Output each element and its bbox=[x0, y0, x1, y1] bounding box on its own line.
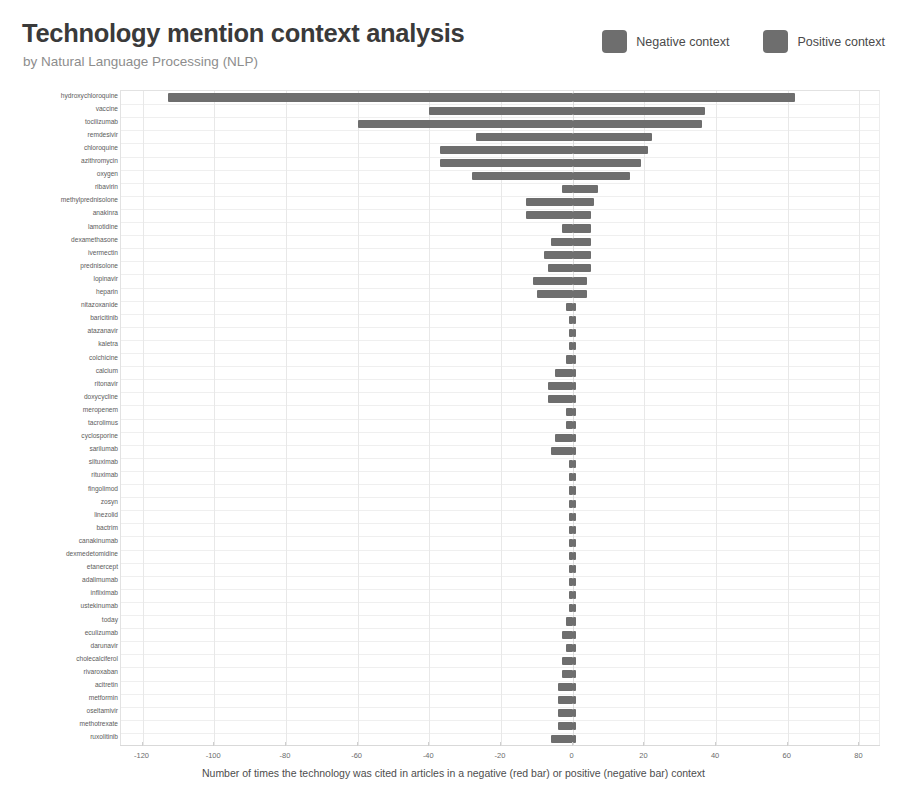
bar-negative[interactable] bbox=[562, 631, 573, 639]
bar-positive[interactable] bbox=[573, 290, 587, 298]
bar-row[interactable] bbox=[121, 615, 879, 628]
bar-positive[interactable] bbox=[573, 342, 577, 350]
bar-row[interactable] bbox=[121, 523, 879, 536]
bar-row[interactable] bbox=[121, 91, 879, 104]
bar-row[interactable] bbox=[121, 576, 879, 589]
bar-row[interactable] bbox=[121, 248, 879, 261]
bar-positive[interactable] bbox=[573, 224, 591, 232]
bar-negative[interactable] bbox=[533, 277, 572, 285]
bar-row[interactable] bbox=[121, 366, 879, 379]
bar-row[interactable] bbox=[121, 157, 879, 170]
bar-row[interactable] bbox=[121, 563, 879, 576]
bar-row[interactable] bbox=[121, 681, 879, 694]
bar-negative[interactable] bbox=[551, 735, 573, 743]
bar-row[interactable] bbox=[121, 130, 879, 143]
bar-row[interactable] bbox=[121, 209, 879, 222]
bar-positive[interactable] bbox=[573, 591, 577, 599]
bar-row[interactable] bbox=[121, 589, 879, 602]
bar-row[interactable] bbox=[121, 170, 879, 183]
bar-positive[interactable] bbox=[573, 120, 702, 128]
bar-row[interactable] bbox=[121, 235, 879, 248]
bar-positive[interactable] bbox=[573, 264, 591, 272]
bar-positive[interactable] bbox=[573, 709, 577, 717]
bar-positive[interactable] bbox=[573, 722, 577, 730]
bar-negative[interactable] bbox=[358, 120, 573, 128]
bar-row[interactable] bbox=[121, 484, 879, 497]
bar-row[interactable] bbox=[121, 274, 879, 287]
bar-positive[interactable] bbox=[573, 631, 577, 639]
bar-row[interactable] bbox=[121, 641, 879, 654]
bar-row[interactable] bbox=[121, 288, 879, 301]
bar-positive[interactable] bbox=[573, 316, 577, 324]
bar-row[interactable] bbox=[121, 707, 879, 720]
bar-row[interactable] bbox=[121, 301, 879, 314]
bar-negative[interactable] bbox=[558, 722, 572, 730]
bar-positive[interactable] bbox=[573, 251, 591, 259]
bar-positive[interactable] bbox=[573, 238, 591, 246]
bar-positive[interactable] bbox=[573, 434, 577, 442]
bar-negative[interactable] bbox=[555, 369, 573, 377]
bar-negative[interactable] bbox=[544, 251, 573, 259]
bar-positive[interactable] bbox=[573, 355, 577, 363]
bar-negative[interactable] bbox=[551, 238, 573, 246]
bar-row[interactable] bbox=[121, 405, 879, 418]
bar-positive[interactable] bbox=[573, 578, 577, 586]
bar-positive[interactable] bbox=[573, 617, 577, 625]
bar-row[interactable] bbox=[121, 654, 879, 667]
bar-positive[interactable] bbox=[573, 185, 598, 193]
bar-positive[interactable] bbox=[573, 460, 577, 468]
bar-positive[interactable] bbox=[573, 473, 577, 481]
bar-positive[interactable] bbox=[573, 146, 648, 154]
bar-negative[interactable] bbox=[440, 159, 573, 167]
bar-negative[interactable] bbox=[566, 617, 573, 625]
bar-positive[interactable] bbox=[573, 133, 652, 141]
bar-negative[interactable] bbox=[429, 107, 572, 115]
bar-row[interactable] bbox=[121, 183, 879, 196]
bar-negative[interactable] bbox=[562, 224, 573, 232]
bar-row[interactable] bbox=[121, 117, 879, 130]
bar-positive[interactable] bbox=[573, 329, 577, 337]
bar-row[interactable] bbox=[121, 419, 879, 432]
bar-negative[interactable] bbox=[551, 447, 573, 455]
bar-row[interactable] bbox=[121, 261, 879, 274]
bar-row[interactable] bbox=[121, 458, 879, 471]
bar-row[interactable] bbox=[121, 510, 879, 523]
bar-negative[interactable] bbox=[472, 172, 572, 180]
bar-row[interactable] bbox=[121, 314, 879, 327]
bar-negative[interactable] bbox=[548, 395, 573, 403]
bar-row[interactable] bbox=[121, 340, 879, 353]
bar-positive[interactable] bbox=[573, 421, 577, 429]
bar-row[interactable] bbox=[121, 353, 879, 366]
bar-negative[interactable] bbox=[476, 133, 573, 141]
bar-row[interactable] bbox=[121, 550, 879, 563]
bar-positive[interactable] bbox=[573, 211, 591, 219]
bar-row[interactable] bbox=[121, 694, 879, 707]
bar-row[interactable] bbox=[121, 196, 879, 209]
bar-positive[interactable] bbox=[573, 486, 577, 494]
bar-negative[interactable] bbox=[566, 644, 573, 652]
bar-negative[interactable] bbox=[558, 709, 572, 717]
bar-positive[interactable] bbox=[573, 683, 577, 691]
bar-positive[interactable] bbox=[573, 644, 577, 652]
bar-row[interactable] bbox=[121, 379, 879, 392]
legend-item-positive[interactable]: Positive context bbox=[763, 30, 885, 53]
bar-positive[interactable] bbox=[573, 382, 577, 390]
bar-positive[interactable] bbox=[573, 500, 577, 508]
bar-positive[interactable] bbox=[573, 513, 577, 521]
bar-row[interactable] bbox=[121, 104, 879, 117]
bar-negative[interactable] bbox=[548, 264, 573, 272]
bar-positive[interactable] bbox=[573, 408, 577, 416]
bar-negative[interactable] bbox=[566, 408, 573, 416]
bar-row[interactable] bbox=[121, 445, 879, 458]
bar-positive[interactable] bbox=[573, 696, 577, 704]
bar-positive[interactable] bbox=[573, 303, 577, 311]
bar-negative[interactable] bbox=[558, 683, 572, 691]
bar-negative[interactable] bbox=[168, 93, 573, 101]
bar-positive[interactable] bbox=[573, 107, 706, 115]
bar-row[interactable] bbox=[121, 667, 879, 680]
bar-row[interactable] bbox=[121, 143, 879, 156]
legend-item-negative[interactable]: Negative context bbox=[602, 30, 729, 53]
bar-negative[interactable] bbox=[566, 355, 573, 363]
bar-positive[interactable] bbox=[573, 369, 577, 377]
bar-row[interactable] bbox=[121, 720, 879, 733]
